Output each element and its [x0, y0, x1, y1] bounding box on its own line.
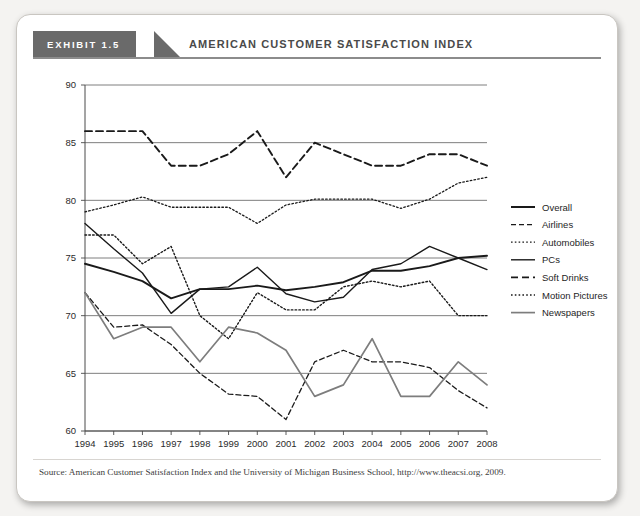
xtick-label: 2005	[390, 438, 411, 449]
xtick-label: 2002	[304, 438, 325, 449]
ytick-label: 70	[65, 310, 76, 321]
xtick-label: 2008	[476, 438, 497, 449]
page-background: EXHIBIT 1.5 AMERICAN CUSTOMER SATISFACTI…	[0, 0, 640, 516]
header-rule	[33, 57, 601, 59]
ytick-label: 80	[65, 195, 76, 206]
chart-area: 6065707580859019941995199619971998199920…	[17, 59, 617, 459]
xtick-label: 1995	[103, 438, 124, 449]
legend-label-airlines: Airlines	[542, 219, 573, 230]
badge-wedge	[154, 31, 180, 57]
ytick-label: 60	[65, 425, 76, 436]
chart-title-text: AMERICAN CUSTOMER SATISFACTION INDEX	[189, 38, 473, 50]
legend-label-newspapers: Newspapers	[542, 307, 595, 318]
series-line-newspapers	[85, 293, 487, 397]
ytick-label: 85	[65, 137, 76, 148]
xtick-label: 1994	[74, 438, 95, 449]
legend-label-overall: Overall	[542, 202, 572, 213]
ytick-label: 90	[65, 79, 76, 90]
source-note: Source: American Customer Satisfaction I…	[39, 467, 595, 479]
series-line-pcs	[85, 223, 487, 313]
footer-rule	[33, 459, 601, 460]
ytick-label: 75	[65, 252, 76, 263]
series-line-soft-drinks	[85, 131, 487, 177]
xtick-label: 1998	[189, 438, 210, 449]
legend-label-soft-drinks: Soft Drinks	[542, 272, 589, 283]
xtick-label: 1999	[218, 438, 239, 449]
xtick-label: 2004	[362, 438, 383, 449]
exhibit-card: EXHIBIT 1.5 AMERICAN CUSTOMER SATISFACTI…	[16, 14, 618, 502]
page-title: AMERICAN CUSTOMER SATISFACTION INDEX	[189, 31, 473, 57]
xtick-label: 1996	[132, 438, 153, 449]
ytick-label: 65	[65, 368, 76, 379]
series-line-motion-pictures	[85, 235, 487, 339]
series-line-airlines	[85, 293, 487, 420]
xtick-label: 2003	[333, 438, 354, 449]
xtick-label: 2007	[448, 438, 469, 449]
exhibit-badge-label: EXHIBIT 1.5	[47, 39, 120, 50]
xtick-label: 1997	[161, 438, 182, 449]
xtick-label: 2006	[419, 438, 440, 449]
xtick-label: 2001	[275, 438, 296, 449]
legend-label-motion-pictures: Motion Pictures	[542, 290, 608, 301]
legend-label-pcs: PCs	[542, 254, 560, 265]
xtick-label: 2000	[247, 438, 268, 449]
legend-label-automobiles: Automobiles	[542, 237, 595, 248]
exhibit-badge: EXHIBIT 1.5	[33, 31, 136, 57]
line-chart: 6065707580859019941995199619971998199920…	[17, 59, 617, 459]
